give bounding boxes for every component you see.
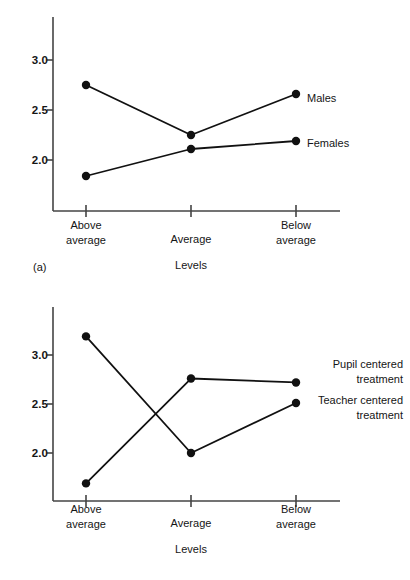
data-point-0-2 [292, 90, 300, 98]
y-tick-label-b-0: 3.0 [16, 350, 48, 361]
data-point-0-0 [82, 479, 90, 487]
figure-panel-b: 3.0 2.5 2.0 Above average Average Below … [0, 290, 410, 580]
x-tick-label-b-2: Below average [241, 502, 351, 531]
data-point-1-0 [82, 332, 90, 340]
y-tick-label-a-2: 2.0 [16, 155, 48, 166]
data-point-0-1 [187, 131, 195, 139]
y-tick-label-a-1: 2.5 [16, 105, 48, 116]
data-point-1-1 [187, 449, 195, 457]
x-tick-label-b-1: Average [136, 516, 246, 531]
data-point-1-1 [187, 145, 195, 153]
y-tick-label-b-2: 2.0 [16, 448, 48, 459]
data-point-0-1 [187, 374, 195, 382]
series-label-b-pupil: Pupil centered treatment [258, 357, 403, 386]
figure-panel-a: 3.0 2.5 2.0 Above average Average Below … [0, 0, 410, 290]
line-chart-b-plot-area [0, 290, 410, 580]
data-point-1-2 [292, 137, 300, 145]
x-tick-label-b-0: Above average [31, 502, 141, 531]
data-point-0-0 [82, 81, 90, 89]
series-label-a-females: Females [307, 136, 349, 151]
x-tick-label-a-2: Below average [241, 218, 351, 247]
y-tick-label-a-0: 3.0 [16, 55, 48, 66]
x-tick-label-a-0: Above average [31, 218, 141, 247]
panel-tag-a: (a) [33, 261, 46, 273]
y-tick-label-b-1: 2.5 [16, 399, 48, 410]
series-label-b-teacher: Teacher centered treatment [258, 393, 403, 422]
data-point-1-0 [82, 172, 90, 180]
x-axis-title-a: Levels [136, 259, 246, 271]
x-tick-label-a-1: Average [136, 232, 246, 247]
series-label-a-males: Males [307, 91, 336, 106]
x-axis-title-b: Levels [136, 543, 246, 555]
